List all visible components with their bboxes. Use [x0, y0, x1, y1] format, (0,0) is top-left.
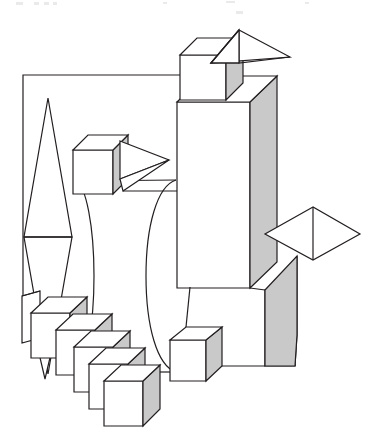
mid-left-cube-front-face — [73, 150, 113, 194]
stair-cube-5-front — [104, 381, 143, 426]
tall-tower-box — [177, 76, 277, 288]
tower-front-face — [177, 102, 250, 288]
tower-right-face — [250, 76, 277, 288]
drawing-canvas — [0, 0, 387, 434]
bottom-center-cube-front-face — [170, 340, 206, 381]
stair-cube-5 — [104, 365, 160, 426]
geometric-figure — [0, 0, 387, 434]
